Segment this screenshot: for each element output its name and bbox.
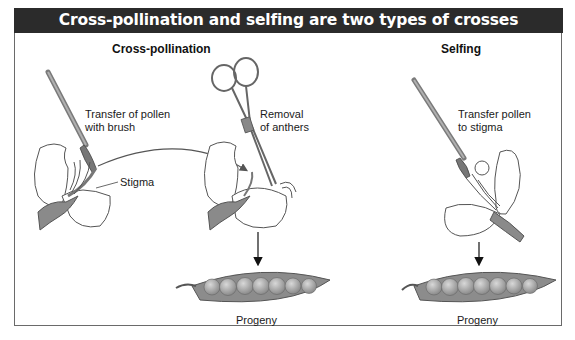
pea-pod-icon [402, 272, 556, 301]
flower-icon [445, 150, 524, 242]
illustration [0, 0, 575, 340]
flower-icon [204, 142, 296, 230]
pea-pod-icon [176, 272, 330, 301]
paintbrush-icon [414, 80, 470, 178]
